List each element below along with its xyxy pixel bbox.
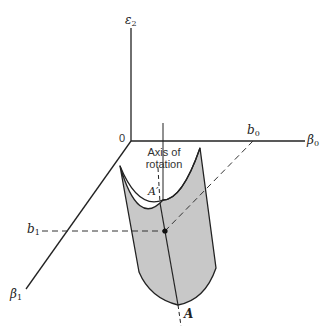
- diagram-canvas: ε2 0 b0 β0 b1 β1 Axis of rotation A′ A: [0, 0, 330, 335]
- beta1-label: β1: [10, 288, 22, 302]
- generator-line-lower: [178, 305, 181, 326]
- a-prime-label: A′: [148, 186, 158, 197]
- beta0-label: β0: [307, 134, 319, 148]
- a-label: A: [184, 308, 193, 320]
- axis-label-line1: Axis of: [141, 147, 187, 158]
- rotated-surface: [120, 148, 216, 305]
- axis-label-line2: rotation: [141, 159, 187, 170]
- b1-label: b1: [27, 223, 40, 237]
- beta1-axis: [26, 141, 131, 289]
- epsilon2-label: ε2: [125, 14, 137, 28]
- axis-of-rotation-label: Axis of rotation: [141, 147, 187, 170]
- center-point: [162, 228, 167, 233]
- b0-label: b0: [247, 124, 260, 138]
- origin-label: 0: [119, 133, 125, 144]
